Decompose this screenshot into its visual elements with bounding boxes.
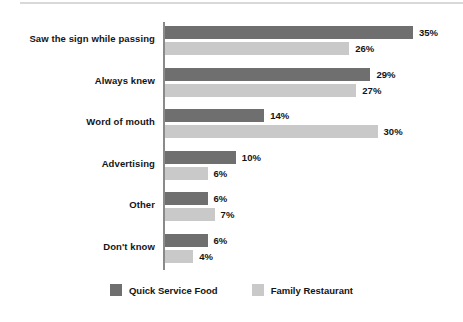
category-label: Saw the sign while passing [0,33,155,44]
legend-label: Family Restaurant [271,285,353,296]
bar-value-label: 29% [376,68,395,81]
bar-row: 6% [165,167,455,180]
bar-value-label: 14% [270,109,289,122]
bar-chart: Saw the sign while passing35%26%Always k… [0,0,463,322]
plot-area: Saw the sign while passing35%26%Always k… [0,22,463,270]
bar-value-label: 10% [242,151,261,164]
bar-row: 7% [165,208,455,221]
bar-family-restaurant [165,250,193,263]
bar-family-restaurant [165,125,378,138]
bar-family-restaurant [165,167,208,180]
bar-row: 14% [165,109,455,122]
bar-value-label: 6% [214,234,228,247]
legend-label: Quick Service Food [129,285,218,296]
bar-value-label: 26% [355,42,374,55]
bar-value-label: 27% [362,84,381,97]
category-label: Word of mouth [0,116,155,127]
bar-row: 6% [165,234,455,247]
bar-quick-service-food [165,26,413,39]
bar-row: 27% [165,84,455,97]
bar-value-label: 4% [199,250,213,263]
bar-quick-service-food [165,192,208,205]
legend-swatch-icon [110,284,122,296]
top-divider [20,2,463,4]
legend-item[interactable]: Quick Service Food [110,284,218,296]
chart-legend: Quick Service FoodFamily Restaurant [0,284,463,296]
bar-row: 26% [165,42,455,55]
bar-quick-service-food [165,151,236,164]
bar-quick-service-food [165,109,264,122]
bar-family-restaurant [165,42,349,55]
bar-value-label: 30% [384,125,403,138]
legend-item[interactable]: Family Restaurant [252,284,353,296]
bar-family-restaurant [165,84,356,97]
legend-swatch-icon [252,284,264,296]
bar-row: 30% [165,125,455,138]
bar-value-label: 6% [214,192,228,205]
category-label: Always knew [0,75,155,86]
category-label: Advertising [0,158,155,169]
bar-row: 4% [165,250,455,263]
bar-family-restaurant [165,208,215,221]
bar-value-label: 6% [214,167,228,180]
category-label: Other [0,199,155,210]
bar-value-label: 35% [419,26,438,39]
bar-quick-service-food [165,68,370,81]
bar-row: 10% [165,151,455,164]
bar-row: 35% [165,26,455,39]
bar-quick-service-food [165,234,208,247]
bar-value-label: 7% [221,208,235,221]
bar-row: 29% [165,68,455,81]
category-label: Don't know [0,241,155,252]
bar-row: 6% [165,192,455,205]
